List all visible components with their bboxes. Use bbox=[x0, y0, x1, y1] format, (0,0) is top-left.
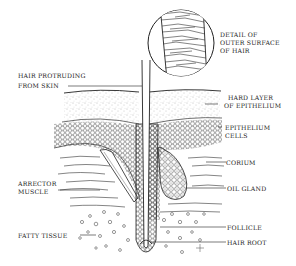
tick-mark bbox=[196, 244, 204, 252]
label-hair-root: HAIR ROOT bbox=[227, 239, 267, 246]
label-follicle: FOLLICLE bbox=[227, 224, 262, 231]
label-hard-layer-2: OF EPITHELIUM bbox=[224, 102, 282, 109]
hair-surface-detail bbox=[148, 5, 214, 80]
label-detail-2: OUTER SURFACE bbox=[220, 39, 280, 46]
label-epithelium-2: CELLS bbox=[225, 132, 248, 139]
label-detail-3: OF HAIR bbox=[220, 47, 250, 54]
label-arrector-2: MUSCLE bbox=[18, 188, 49, 195]
label-fatty-tissue: FATTY TISSUE bbox=[18, 232, 68, 239]
label-epithelium-1: EPITHELIUM bbox=[225, 124, 271, 131]
label-corium: CORIUM bbox=[226, 159, 256, 166]
skin-hair-diagram: DETAIL OF OUTER SURFACE OF HAIR HAIR PRO… bbox=[0, 0, 296, 266]
label-hard-layer-1: HARD LAYER bbox=[228, 94, 273, 101]
label-protruding-1: HAIR PROTRUDING bbox=[18, 72, 86, 79]
label-arrector-1: ARRECTOR bbox=[17, 180, 57, 187]
oil-gland bbox=[158, 147, 187, 199]
label-protruding-2: FROM SKIN bbox=[18, 82, 59, 89]
label-oil-gland: OIL GLAND bbox=[227, 185, 266, 192]
epithelium-cells-layer-right bbox=[148, 120, 222, 220]
label-detail-1: DETAIL OF bbox=[220, 31, 258, 38]
